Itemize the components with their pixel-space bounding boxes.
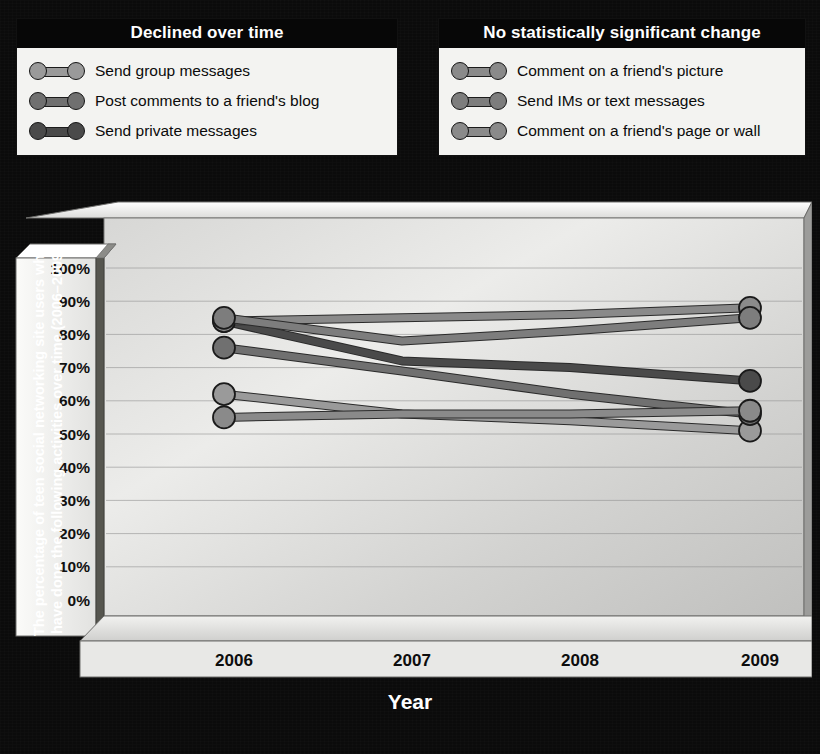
series-endpoint-marker[interactable]	[213, 337, 235, 359]
xaxis-year-label: 2008	[561, 651, 599, 670]
yaxis-wall	[96, 258, 104, 636]
legend-item-label: Post comments to a friend's blog	[95, 92, 319, 110]
legend-item-post-comments-friends-blog[interactable]: Post comments to a friend's blog	[17, 86, 397, 116]
xaxis-year-label: 2007	[393, 651, 431, 670]
series-endpoint-marker[interactable]	[739, 400, 761, 422]
legend-marker-icon	[29, 61, 85, 81]
legend-nochange-items: Comment on a friend's picture Send IMs o…	[439, 48, 805, 155]
legend-item-comment-friends-page-or-wall[interactable]: Comment on a friend's page or wall	[439, 116, 805, 146]
xaxis-year-label: 2006	[215, 651, 253, 670]
chart-canvas: 0%10%20%30%40%50%60%70%80%90%100% 200620…	[8, 196, 812, 696]
legend-item-label: Send private messages	[95, 122, 257, 140]
series-endpoint-marker[interactable]	[739, 307, 761, 329]
legend-declined-over-time: Declined over time Send group messages P…	[16, 18, 398, 156]
legend-item-send-private-messages[interactable]: Send private messages	[17, 116, 397, 146]
series-endpoint-marker[interactable]	[213, 307, 235, 329]
legend-item-label: Send IMs or text messages	[517, 92, 705, 110]
legend-no-statistically-significant-change: No statistically significant change Comm…	[438, 18, 806, 156]
legend-item-label: Comment on a friend's picture	[517, 62, 723, 80]
plot-floor	[80, 616, 812, 641]
chart-wall-right-side	[804, 202, 812, 628]
series-endpoint-marker[interactable]	[213, 406, 235, 428]
legend-item-comment-friends-picture[interactable]: Comment on a friend's picture	[439, 56, 805, 86]
legend-item-send-ims-text-messages[interactable]: Send IMs or text messages	[439, 86, 805, 116]
legend-marker-icon	[451, 91, 507, 111]
legend-marker-icon	[451, 121, 507, 141]
chart-wall-top-cap	[26, 202, 812, 218]
yaxis-title-container: The percentage of teen social networking…	[18, 246, 78, 636]
line-chart: 0%10%20%30%40%50%60%70%80%90%100% 200620…	[8, 196, 812, 696]
legend-marker-icon	[29, 121, 85, 141]
xaxis-strip	[80, 641, 812, 677]
legend-marker-icon	[29, 91, 85, 111]
legend-marker-icon	[451, 61, 507, 81]
yaxis-title: The percentage of teen social networking…	[18, 246, 78, 636]
series-endpoint-marker[interactable]	[213, 383, 235, 405]
legend-item-label: Send group messages	[95, 62, 250, 80]
legend-nochange-title: No statistically significant change	[439, 19, 805, 48]
legend-declined-items: Send group messages Post comments to a f…	[17, 48, 397, 155]
xaxis-title: Year	[0, 690, 820, 714]
xaxis-year-label: 2009	[741, 651, 779, 670]
legend-item-label: Comment on a friend's page or wall	[517, 122, 760, 140]
legend-declined-title: Declined over time	[17, 19, 397, 48]
legend-item-send-group-messages[interactable]: Send group messages	[17, 56, 397, 86]
series-endpoint-marker[interactable]	[739, 370, 761, 392]
